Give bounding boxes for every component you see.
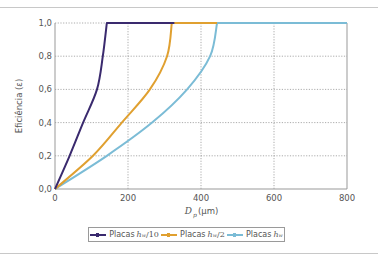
svg-text:D: D [184,206,192,216]
y-tick-label: 0,0 [38,184,52,194]
y-tick-label: 0,2 [38,151,52,161]
y-tick-label: 0,6 [38,84,52,94]
svg-text:p: p [193,211,197,219]
x-tick-label: 0 [52,193,57,203]
legend-line-blue-icon [227,234,243,236]
y-tick-label: 0,8 [38,51,52,61]
tick-labels: 02004006008000,00,20,40,60,81,0 [38,18,355,203]
legend-line-orange-icon [161,234,177,236]
series-line [55,23,174,189]
series-line [55,23,217,189]
legend-line-purple-icon [90,234,106,236]
legend: Placas hw/10 Placas hw/2 Placas hw [88,227,285,242]
x-axis-label: D p (µm) [184,206,219,219]
x-tick-label: 200 [120,193,136,203]
legend-item-hw10: Placas hw/10 [90,230,159,239]
y-tick-label: 1,0 [38,18,52,28]
y-axis-label: Eficiência (ε) [14,79,24,134]
x-tick-label: 800 [339,193,355,203]
x-tick-label: 600 [266,193,282,203]
legend-item-hw2: Placas hw/2 [161,230,225,239]
efficiency-chart: 02004006008000,00,20,40,60,81,0 Eficiênc… [0,0,378,260]
svg-text:(µm): (µm) [198,206,218,216]
y-tick-label: 0,4 [38,118,52,128]
grid-lines [55,23,347,189]
x-tick-label: 400 [193,193,209,203]
legend-item-hw: Placas hw [227,230,283,239]
